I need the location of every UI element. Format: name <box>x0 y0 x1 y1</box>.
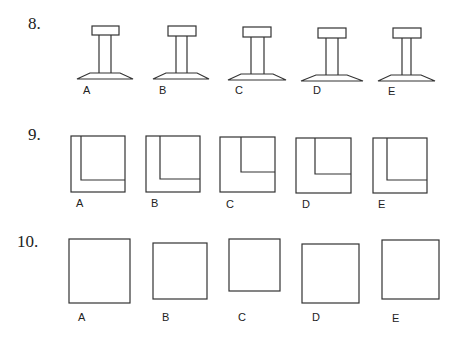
q10-option-e-label[interactable]: E <box>392 312 399 324</box>
q9-option-b-label[interactable]: B <box>151 197 158 209</box>
q8-option-a-figure <box>77 26 133 79</box>
q9-option-e-label[interactable]: E <box>378 198 385 210</box>
q9-option-d-label[interactable]: D <box>302 198 310 210</box>
q10-option-e-figure <box>382 240 439 299</box>
q9-option-b-figure <box>146 136 200 192</box>
q9-option-e-figure <box>373 138 427 193</box>
q9-option-c-label[interactable]: C <box>226 198 234 210</box>
q8-option-a-label[interactable]: A <box>83 84 90 96</box>
q10-option-a-label[interactable]: A <box>78 311 85 323</box>
q8-option-d-label[interactable]: D <box>313 84 321 96</box>
q8-option-e-figure <box>378 28 435 81</box>
q8-option-e-label[interactable]: E <box>388 85 395 97</box>
q8-option-b-label[interactable]: B <box>159 84 166 96</box>
figures-canvas <box>0 0 458 338</box>
q10-option-d-figure <box>302 244 359 303</box>
q10-option-d-label[interactable]: D <box>312 311 320 323</box>
q9-option-a-label[interactable]: A <box>76 197 83 209</box>
q9-option-c-figure <box>220 137 275 192</box>
q9-option-d-figure <box>296 138 351 193</box>
q10-option-c-figure <box>229 239 280 291</box>
q8-option-b-figure <box>153 26 209 79</box>
q10-option-c-label[interactable]: C <box>238 311 246 323</box>
q8-option-c-label[interactable]: C <box>235 84 243 96</box>
q8-option-c-figure <box>228 27 286 80</box>
q8-option-d-figure <box>301 28 363 81</box>
q10-option-b-figure <box>153 243 207 299</box>
q10-option-b-label[interactable]: B <box>162 311 169 323</box>
q9-option-a-figure <box>71 136 125 192</box>
q10-option-a-figure <box>69 239 130 303</box>
